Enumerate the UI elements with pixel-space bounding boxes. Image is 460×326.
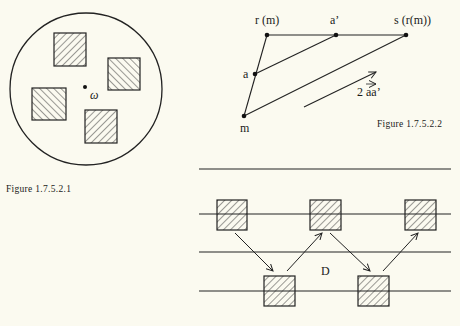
figure-strip-diagram: D <box>199 169 451 306</box>
point-m <box>242 114 247 119</box>
segment-a-aprime <box>255 35 336 74</box>
vector-label: 2 aa’ <box>357 85 381 99</box>
hatched-square-left <box>32 88 66 120</box>
label-a: a <box>243 67 249 81</box>
hatched-square-right <box>108 58 140 90</box>
vector-label-group: 2 aa’ <box>357 84 381 99</box>
figures-canvas: ω Figure 1.7.5.2.1 r (m) a’ s (r(m)) a m… <box>0 0 460 326</box>
omega-label: ω <box>90 88 98 102</box>
point-a <box>253 72 258 77</box>
upper-square-3 <box>405 200 436 230</box>
label-s-r-m: s (r(m)) <box>394 13 431 27</box>
upper-square-2 <box>310 200 341 230</box>
hatched-square-top <box>54 33 86 66</box>
center-point <box>83 85 87 89</box>
label-m: m <box>240 121 250 135</box>
label-r-m: r (m) <box>255 13 279 27</box>
segment-m-srm <box>244 35 406 116</box>
figure-1-7-5-2-2: r (m) a’ s (r(m)) a m 2 aa’ Figure 1.7.5… <box>240 13 442 135</box>
figure-1-7-5-2-1: ω Figure 1.7.5.2.1 <box>6 13 162 194</box>
lower-square-1 <box>264 276 295 306</box>
upper-square-1 <box>217 200 247 230</box>
hatched-square-bottom <box>85 110 117 143</box>
label-a-prime: a’ <box>330 13 339 27</box>
point-s-r-m <box>404 33 409 38</box>
point-r-m <box>265 33 270 38</box>
figure-2-caption: Figure 1.7.5.2.2 <box>377 119 442 129</box>
point-a-prime <box>334 33 339 38</box>
lower-square-2 <box>358 276 389 306</box>
region-label-d: D <box>321 264 330 278</box>
figure-1-caption: Figure 1.7.5.2.1 <box>6 184 71 194</box>
